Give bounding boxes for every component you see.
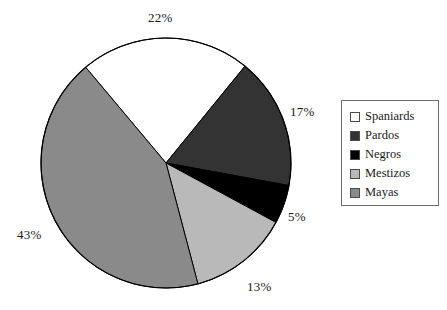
- slice-label-negros: 5%: [288, 209, 306, 225]
- slice-label-pardos: 17%: [290, 104, 314, 120]
- legend-swatch-pardos: [350, 131, 360, 141]
- legend-item-mestizos: Mestizos: [350, 164, 438, 183]
- legend-item-spaniards: Spaniards: [350, 107, 438, 126]
- pie-slice-group: [41, 38, 291, 288]
- chart-legend: Spaniards Pardos Negros Mestizos Mayas: [341, 100, 439, 206]
- legend-swatch-negros: [350, 150, 360, 160]
- legend-item-negros: Negros: [350, 145, 438, 164]
- pie-chart-figure: 22% 17% 5% 13% 43% Spaniards Pardos Negr…: [0, 0, 447, 310]
- legend-swatch-mestizos: [350, 169, 360, 179]
- legend-label-mestizos: Mestizos: [365, 167, 410, 180]
- legend-label-pardos: Pardos: [365, 129, 399, 142]
- legend-item-pardos: Pardos: [350, 126, 438, 145]
- legend-label-negros: Negros: [365, 148, 401, 161]
- legend-swatch-spaniards: [350, 112, 360, 122]
- slice-label-mayas: 43%: [17, 227, 41, 243]
- slice-label-mestizos: 13%: [247, 279, 271, 295]
- slice-label-spaniards: 22%: [148, 10, 172, 26]
- legend-label-spaniards: Spaniards: [365, 110, 414, 123]
- legend-item-mayas: Mayas: [350, 183, 438, 202]
- legend-swatch-mayas: [350, 188, 360, 198]
- legend-label-mayas: Mayas: [365, 186, 398, 199]
